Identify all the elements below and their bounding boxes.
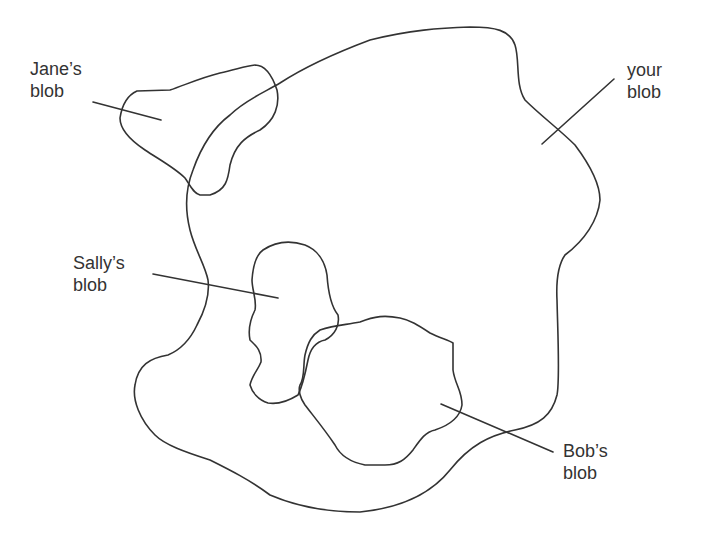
bobs-leader-line xyxy=(441,404,553,452)
bobs-blob-label-line1: Bob’s xyxy=(563,440,608,462)
janes-blob-outline xyxy=(120,65,278,195)
bobs-blob-label-line2: blob xyxy=(563,462,608,484)
janes-blob-label-line2: blob xyxy=(30,80,82,102)
bobs-blob-label: Bob’s blob xyxy=(563,440,608,484)
sallys-blob-label-line2: blob xyxy=(73,274,125,296)
sallys-blob-outline xyxy=(249,242,338,403)
your-blob-outline xyxy=(134,27,600,512)
janes-blob-label: Jane’s blob xyxy=(30,58,82,102)
your-blob-label: your blob xyxy=(627,59,662,103)
janes-blob-label-line1: Jane’s xyxy=(30,58,82,80)
your-blob-label-line1: your xyxy=(627,59,662,81)
your-blob-label-line2: blob xyxy=(627,81,662,103)
sallys-blob-label: Sally’s blob xyxy=(73,252,125,296)
sallys-blob-label-line1: Sally’s xyxy=(73,252,125,274)
janes-leader-line xyxy=(93,102,161,120)
your-leader-line xyxy=(542,79,614,144)
bobs-blob-outline xyxy=(299,316,462,465)
sallys-leader-line xyxy=(153,274,278,298)
